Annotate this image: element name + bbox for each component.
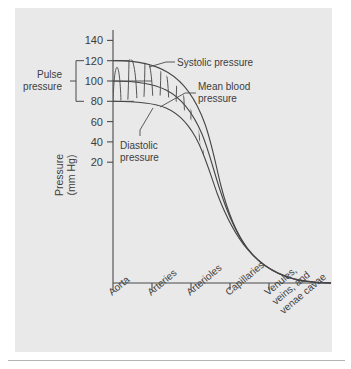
diastolic-pressure-label-line-1: Diastolic	[120, 140, 158, 151]
y-tick-marks	[107, 40, 113, 162]
diastolic-pressure-curve	[113, 101, 331, 283]
x-label-arterioles-text: Arterioles	[184, 262, 223, 298]
systolic-pressure-annotation: Systolic pressure	[149, 57, 254, 68]
diastolic-pressure-leader	[140, 108, 153, 136]
x-label-arteries-text: Arteries	[145, 267, 178, 298]
y-tick-label-60: 60	[91, 116, 103, 128]
x-label-arteries: Arteries	[145, 267, 178, 298]
figure-root: 140 120 100 80 60 40 20 Pressure (mm Hg)…	[0, 0, 351, 369]
pulse-pressure-bracket-shape	[76, 61, 84, 102]
x-label-venules: Venules, veins, and venae cavae	[262, 252, 328, 316]
y-axis-title-line-1: Pressure	[53, 154, 65, 196]
pulse-waveform-group	[113, 59, 215, 185]
x-label-capillaries-text: Capillaries	[223, 259, 266, 297]
y-tick-label-140: 140	[85, 34, 103, 46]
pulse-pressure-label-line-2: pressure	[23, 81, 62, 92]
x-category-labels: Aorta Arteries Arterioles Capillaries Ve…	[106, 252, 328, 316]
y-tick-label-120: 120	[85, 55, 103, 67]
y-tick-label-20: 20	[91, 156, 103, 168]
mean-blood-pressure-label-line-1: Mean blood	[198, 81, 250, 92]
y-tick-label-80: 80	[91, 95, 103, 107]
mean-blood-pressure-curve	[113, 81, 331, 283]
pulse-pressure-label: Pulse pressure	[23, 69, 62, 92]
x-label-arterioles: Arterioles	[184, 262, 223, 298]
x-label-capillaries: Capillaries	[223, 259, 266, 297]
pulse-waveform	[113, 59, 215, 185]
diastolic-pressure-annotation: Diastolic pressure	[120, 108, 159, 163]
diastolic-pressure-label-line-2: pressure	[120, 152, 159, 163]
pulse-pressure-label-line-1: Pulse	[37, 69, 62, 80]
x-label-aorta-text: Aorta	[106, 273, 132, 297]
x-label-aorta: Aorta	[106, 273, 132, 297]
systolic-pressure-label: Systolic pressure	[177, 57, 254, 68]
y-tick-labels: 140 120 100 80 60 40 20	[85, 34, 103, 168]
y-tick-label-40: 40	[91, 136, 103, 148]
y-axis-title: Pressure (mm Hg)	[53, 154, 77, 196]
pulse-pressure-bracket	[70, 61, 84, 102]
y-axis-title-line-2: (mm Hg)	[65, 155, 77, 196]
mean-blood-pressure-label-line-2: pressure	[198, 93, 237, 104]
pressure-chart: 140 120 100 80 60 40 20 Pressure (mm Hg)…	[0, 0, 351, 369]
systolic-pressure-leader	[149, 62, 175, 67]
y-tick-label-100: 100	[85, 75, 103, 87]
